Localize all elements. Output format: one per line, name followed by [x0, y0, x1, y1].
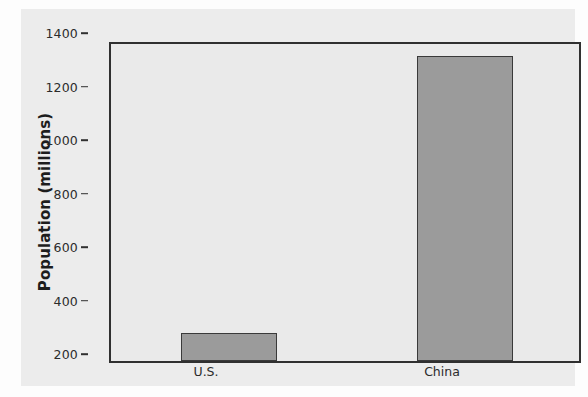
chart-page: Population (millions) 200400600800100012… — [0, 0, 588, 397]
y-axis-tick-mark — [81, 139, 88, 141]
y-axis-tick-mark — [81, 246, 88, 248]
y-axis-tick-mark — [81, 300, 88, 302]
figure-panel: Population (millions) 200400600800100012… — [21, 9, 575, 386]
bar-u-s — [181, 333, 277, 361]
y-axis-tick-label: 1400 — [18, 26, 78, 41]
y-axis-tick-label: 1200 — [18, 79, 78, 94]
y-axis-tick-mark — [81, 32, 88, 34]
y-axis-tick-mark — [81, 193, 88, 195]
y-axis-tick-mark — [81, 353, 88, 355]
y-axis-tick-label: 200 — [18, 347, 78, 362]
plot-area — [111, 44, 579, 361]
y-axis-tick-mark — [81, 86, 88, 88]
y-axis-tick-label: 400 — [18, 293, 78, 308]
x-axis-tick-label: U.S. — [193, 364, 218, 379]
y-axis-tick-label: 1000 — [18, 133, 78, 148]
plot-frame — [109, 42, 581, 363]
y-axis-tick-label: 600 — [18, 240, 78, 255]
y-axis-tick-label: 800 — [18, 186, 78, 201]
bar-china — [417, 56, 513, 361]
x-axis-tick-label: China — [424, 364, 460, 379]
